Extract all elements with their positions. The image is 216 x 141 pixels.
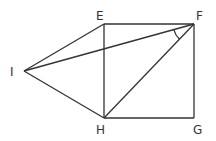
label-g: G <box>193 123 202 137</box>
label-h: H <box>96 123 105 137</box>
label-i: I <box>10 65 14 79</box>
triangle-ieh <box>24 24 104 118</box>
angle-arc-ifh <box>174 30 180 40</box>
segment-if <box>24 24 194 71</box>
geometry-diagram: E F G H I <box>0 0 216 141</box>
segment-ie <box>24 24 104 71</box>
label-e: E <box>96 9 104 23</box>
segment-ih <box>24 71 104 118</box>
diagonal-fh <box>104 24 194 118</box>
label-f: F <box>196 9 203 23</box>
